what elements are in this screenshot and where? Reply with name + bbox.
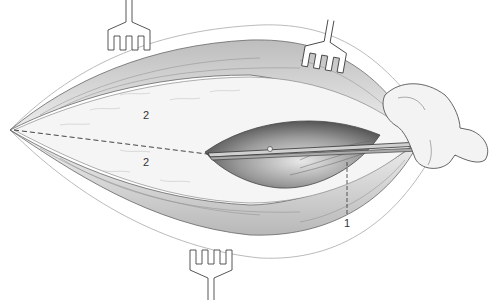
label-2-lower: 2 (143, 157, 149, 168)
retractor-icon (190, 250, 232, 300)
label-1: 1 (344, 218, 350, 229)
retractor-icon (108, 0, 150, 50)
surgical-illustration (0, 0, 489, 301)
label-2-upper: 2 (143, 110, 149, 121)
